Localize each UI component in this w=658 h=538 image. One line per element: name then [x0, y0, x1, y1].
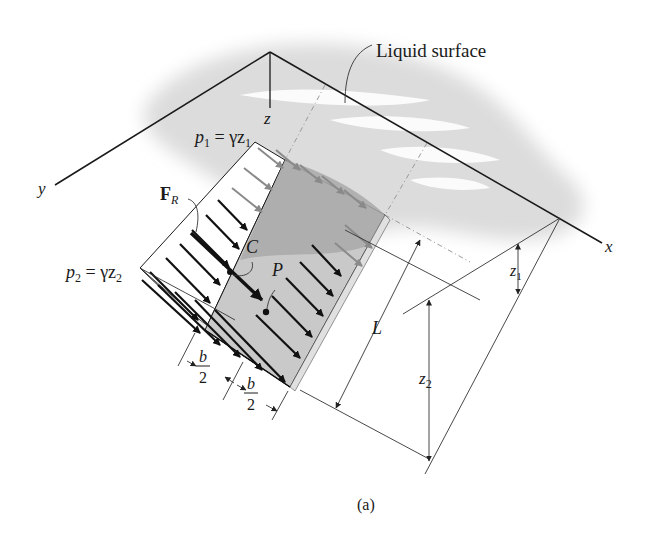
axis-label-z: z: [263, 109, 271, 128]
pressure-p1-label: p1 = γz1: [193, 127, 251, 150]
axis-label-x: x: [604, 237, 613, 256]
centroid-point: [227, 269, 233, 275]
center-of-pressure-label: P: [271, 260, 283, 280]
depth-z2-label: z2: [418, 369, 432, 391]
figure-caption: (a): [357, 496, 375, 514]
svg-text:b: b: [199, 348, 207, 365]
centroid-label: C: [246, 237, 259, 257]
svg-text:b: b: [247, 375, 255, 392]
svg-text:2: 2: [247, 396, 255, 413]
liquid-surface-label: Liquid surface: [376, 40, 486, 61]
half-width-label-1: b 2: [196, 348, 210, 386]
half-width-label-2: b 2: [244, 375, 258, 413]
depth-z1-label: z1: [509, 262, 522, 282]
axis-label-y: y: [36, 179, 46, 198]
length-label: L: [371, 318, 382, 338]
center-of-pressure-point: [263, 309, 269, 315]
pressure-p2-label: p2 = γz2: [64, 262, 122, 285]
resultant-force-label: FR: [160, 184, 179, 207]
svg-text:2: 2: [199, 369, 207, 386]
hydrostatic-plate-diagram: Liquid surface y x z p1 = γz1 p2 = γz2 F…: [0, 0, 658, 538]
